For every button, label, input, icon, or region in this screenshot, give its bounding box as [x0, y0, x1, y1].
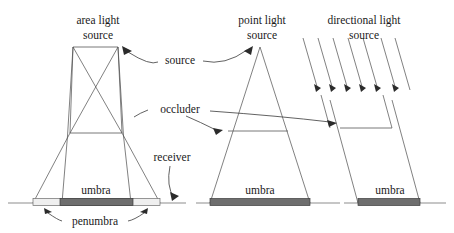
directional-arrowhead-1 [314, 84, 321, 92]
area-ray-6 [118, 47, 122, 133]
directional-umbra-label: umbra [375, 184, 404, 196]
directional-umbra-bar [358, 199, 420, 206]
point-light-scene: point light source umbra [210, 14, 310, 206]
directional-arrowhead-6 [392, 84, 399, 92]
area-light-label-line2: source [83, 29, 113, 41]
occluder-leader-directional [210, 111, 330, 122]
area-ray-2b [122, 133, 160, 203]
directional-arrowhead-4 [359, 84, 366, 92]
point-umbra-bar [210, 199, 310, 206]
point-light-label-line2: source [247, 29, 277, 41]
source-arrowhead-right [244, 46, 253, 55]
area-ray-4b [124, 136, 132, 203]
directional-ray-2 [318, 38, 333, 90]
directional-ray-1 [303, 38, 318, 90]
directional-ray-3 [333, 38, 348, 90]
point-ray-left [210, 47, 260, 203]
occluder-label: occluder [160, 103, 200, 115]
area-umbra-label: umbra [81, 184, 110, 196]
directional-light-scene: directional light source umbra [303, 14, 420, 206]
occluder-arrowhead-point [213, 128, 223, 135]
point-ray-right [260, 47, 310, 203]
occluder-leader-stub-left [134, 110, 148, 117]
area-ray-2 [73, 47, 122, 133]
receiver-arrowhead [170, 192, 179, 201]
area-ray-3 [70, 47, 118, 133]
penumbra-leader-right [128, 213, 144, 221]
directional-arrowhead-5 [374, 84, 381, 92]
directional-ray-5 [363, 38, 378, 90]
source-leader-right [203, 50, 247, 62]
directional-ray-7 [395, 38, 410, 90]
directional-ray-6 [381, 38, 396, 90]
directional-light-label-line1: directional light [327, 14, 401, 27]
source-annotation: source [122, 46, 253, 66]
directional-ray-bundle [303, 38, 410, 92]
receiver-label: receiver [153, 151, 190, 163]
area-umbra-bar [60, 199, 133, 206]
penumbra-annotation: penumbra [44, 208, 148, 228]
area-light-label-line1: area light [76, 14, 120, 27]
occluder-annotation: occluder [134, 103, 337, 135]
point-umbra-label: umbra [245, 184, 274, 196]
source-label: source [165, 54, 195, 66]
source-leader-left [128, 52, 158, 63]
directional-arrowhead-2 [329, 84, 336, 92]
shadow-diagram-figure: area light source umbra penumbra point l [0, 0, 454, 233]
diagram-canvas: area light source umbra penumbra point l [0, 0, 454, 233]
penumbra-label: penumbra [72, 215, 118, 228]
area-light-scene: area light source umbra penumbra [33, 14, 160, 228]
directional-arrowhead-3 [344, 84, 351, 92]
area-ray-3b [33, 133, 70, 203]
directional-light-label-line2: source [349, 29, 379, 41]
occluder-leader-point [186, 116, 216, 130]
receiver-annotation: receiver [153, 151, 190, 201]
directional-edge-left [330, 100, 358, 203]
directional-edge-right-upper [383, 95, 392, 128]
penumbra-arrowhead-left [44, 208, 52, 214]
point-light-label-line1: point light [238, 14, 286, 27]
area-light-ray-bundle [33, 47, 160, 203]
penumbra-arrowhead-right [140, 208, 148, 214]
penumbra-leader-left [48, 213, 62, 221]
directional-ray-4 [348, 38, 363, 90]
